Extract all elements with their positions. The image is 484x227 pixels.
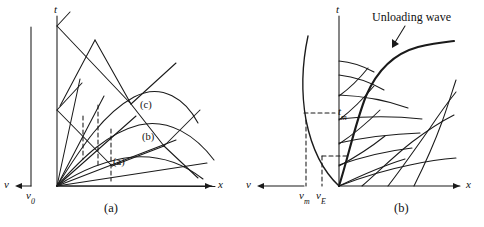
figure-root: t x v v0 (a) (b) (c) (a) <box>0 0 484 227</box>
panel-a-curve-label-a: (a) <box>113 157 125 168</box>
panel-a-t-axis-label: t <box>54 4 57 15</box>
curve-c <box>57 91 198 186</box>
v-axis-arrowhead <box>257 183 264 189</box>
panel-b-v-axis-label: v <box>246 179 251 190</box>
unloading-wave-pointer-line <box>394 26 405 44</box>
panel-b-caption: (b) <box>394 202 409 215</box>
curve-a <box>57 157 203 186</box>
panel-a-v0-subscript: 0 <box>31 197 35 206</box>
x-axis-arrowhead <box>453 183 460 189</box>
panel-b-x-axis-label: x <box>466 179 471 190</box>
panel-a-caption: (a) <box>104 202 118 215</box>
unloading-wave-curve <box>339 41 454 186</box>
panel-a: t x v v0 (a) (b) (c) (a) <box>0 0 242 227</box>
panel-b-t-m-subscript: m <box>341 113 347 122</box>
panel-a-curve-label-b: (b) <box>142 132 154 143</box>
mesh-right-running <box>339 61 422 186</box>
panel-a-canvas <box>0 0 242 227</box>
unloading-wave-annotation: Unloading wave <box>372 11 451 23</box>
v-axis-arrowhead <box>15 183 22 189</box>
unloading-wave-pointer-arrowhead <box>392 39 399 48</box>
panel-a-v0-label: v0 <box>26 190 35 204</box>
panel-b-v-m-label: vm <box>299 190 310 204</box>
panel-b-t-m-label: tm <box>338 106 347 120</box>
panel-b-canvas <box>242 0 484 227</box>
panel-a-v-axis-label: v <box>4 179 9 190</box>
velocity-profile-curve <box>303 36 339 186</box>
panel-b-v-E-label: vE <box>316 190 326 204</box>
panel-a-x-axis-label: x <box>218 179 223 190</box>
panel-b-v-E-subscript: E <box>321 197 326 206</box>
panel-a-curve-label-c: (c) <box>140 100 152 111</box>
panel-b-t-axis-label: t <box>336 4 339 15</box>
panel-b: t x v vm vE tm Unloading wave (b) <box>242 0 484 227</box>
panel-b-v-m-subscript: m <box>304 197 310 206</box>
